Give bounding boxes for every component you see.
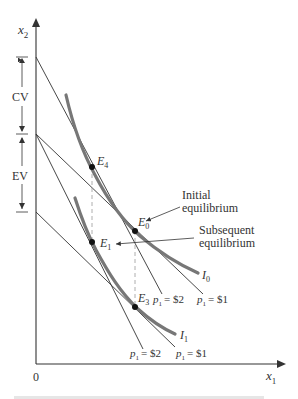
price-label-lower-right: p1= $1 bbox=[175, 347, 207, 362]
price-label-lower-left: p1= $2 bbox=[129, 347, 161, 362]
x-axis-arrow-icon bbox=[277, 360, 286, 368]
budget-lines bbox=[36, 57, 203, 349]
cv-ev-brackets bbox=[16, 57, 28, 212]
axes: x2 0 x1 bbox=[17, 18, 286, 386]
point-e1 bbox=[89, 239, 95, 245]
initial-equilibrium-arrow bbox=[146, 207, 180, 221]
point-e4 bbox=[89, 164, 95, 170]
e1-label: E1 bbox=[99, 236, 111, 252]
y-axis-arrow-icon bbox=[32, 18, 40, 27]
subsequent-equilibrium-arrow bbox=[116, 238, 194, 244]
i1-label: I1 bbox=[179, 328, 188, 344]
indifference-curve-i0 bbox=[66, 95, 198, 273]
ev-label: EV bbox=[12, 169, 28, 183]
price-label-upper-right: p1= $1 bbox=[196, 293, 228, 308]
e4-label: E4 bbox=[96, 154, 108, 170]
cv-label: CV bbox=[12, 90, 29, 104]
x-axis-label: x1 bbox=[265, 368, 276, 386]
origin-label: 0 bbox=[33, 370, 39, 384]
i0-label: I0 bbox=[201, 268, 210, 284]
e3-label: E3 bbox=[137, 291, 149, 307]
welfare-diagram: x2 0 x1 CV EV E4 bbox=[0, 0, 298, 399]
e0-label: E0 bbox=[137, 215, 149, 231]
subsequent-equilibrium-label: Subsequent equilibrium bbox=[199, 223, 257, 250]
price-label-upper-left: p1= $2 bbox=[152, 293, 184, 308]
y-axis-label: x2 bbox=[17, 22, 28, 40]
figure-caption-cropped bbox=[14, 393, 264, 399]
initial-equilibrium-label: Initial equilibrium bbox=[182, 188, 239, 215]
